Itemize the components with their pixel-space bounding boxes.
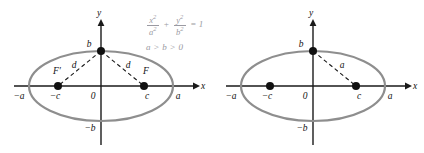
equation-equals-one: = 1 bbox=[189, 19, 205, 29]
equation-plus-sign: + bbox=[162, 19, 171, 29]
x-axis-label: x bbox=[412, 81, 418, 91]
vertex-bottom-label: −b bbox=[84, 123, 95, 133]
focus-left-point bbox=[54, 82, 62, 90]
x-axis-label: x bbox=[200, 81, 206, 91]
left-equation: x2 a2 + y2 b2 = 1 a > b > 0 bbox=[146, 14, 205, 52]
distance-right-label: d bbox=[126, 60, 131, 70]
focus-left-point bbox=[266, 82, 274, 90]
focus-left-label: F′ bbox=[52, 66, 62, 76]
vertex-top-label: b bbox=[299, 39, 304, 49]
equation-fraction-x: x2 a2 bbox=[146, 19, 162, 29]
focus-right-point bbox=[352, 82, 360, 90]
ellipse-figure: x y 0 b −b −a a −c c F′ F d d x2 a2 + y2 bbox=[0, 0, 424, 153]
distance-left-label: d bbox=[72, 60, 77, 70]
y-axis-label: y bbox=[96, 8, 102, 18]
equation-condition: a > b > 0 bbox=[146, 43, 205, 52]
origin-label: 0 bbox=[91, 91, 96, 101]
x-axis-arrow bbox=[193, 83, 200, 90]
vertex-right-label: a bbox=[388, 91, 393, 101]
vertex-right-label: a bbox=[176, 91, 181, 101]
vertex-bottom-label: −b bbox=[296, 123, 307, 133]
focus-left-coord-label: −c bbox=[262, 91, 273, 101]
focus-right-point bbox=[140, 82, 148, 90]
origin-label: 0 bbox=[303, 91, 308, 101]
focus-right-coord-label: c bbox=[145, 91, 150, 101]
vertex-left-label: −a bbox=[13, 91, 24, 101]
focus-right-label: F bbox=[142, 66, 149, 76]
focus-right-coord-label: c bbox=[357, 91, 362, 101]
y-axis-label: y bbox=[308, 8, 314, 18]
vertex-top-point bbox=[97, 47, 105, 55]
right-diagram-panel: x y 0 b −b −a a −c c a a2=b2+c2 bbox=[212, 0, 424, 153]
vertex-top-label: b bbox=[87, 39, 92, 49]
x-axis-arrow bbox=[405, 83, 412, 90]
right-ellipse-svg: x y 0 b −b −a a −c c a bbox=[212, 0, 424, 153]
vertex-left-label: −a bbox=[225, 91, 236, 101]
vertex-top-point bbox=[309, 47, 317, 55]
semi-major-distance-label: a bbox=[340, 60, 345, 70]
focus-left-coord-label: −c bbox=[50, 91, 61, 101]
y-axis-arrow bbox=[310, 19, 317, 26]
y-axis-arrow bbox=[98, 19, 105, 26]
left-diagram-panel: x y 0 b −b −a a −c c F′ F d d x2 a2 + y2 bbox=[0, 0, 212, 153]
equation-fraction-y: y2 b2 bbox=[171, 19, 189, 29]
